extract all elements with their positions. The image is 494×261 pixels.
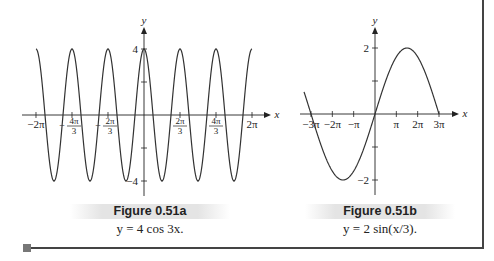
frame-right-border (482, 0, 484, 248)
x-tick-label: −3π (302, 118, 320, 130)
x-axis-arrow-icon (452, 111, 459, 117)
denominator: 3 (178, 126, 183, 136)
x-tick-label: π (394, 118, 400, 130)
y-tick-label: 4 (133, 43, 139, 55)
y-axis-label: y (141, 14, 147, 26)
x-tick-label: 2π3 (173, 116, 187, 136)
denominator: 3 (214, 126, 219, 136)
corner-square-marker (23, 244, 31, 252)
x-tick-label: −2π (27, 118, 45, 130)
y-axis-arrow-icon (372, 27, 378, 34)
frame-bottom-border (30, 247, 484, 249)
figure-equation-b: y = 2 sin(x/3). (305, 221, 455, 236)
x-axis-arrow-icon (264, 112, 271, 118)
x-tick-label: 4π3 (209, 116, 223, 136)
x-axis-label: x (462, 107, 468, 119)
denominator: 3 (108, 126, 113, 136)
numerator: 2π (105, 116, 115, 126)
x-tick-label: 3π (433, 118, 445, 130)
x-tick-label: 2π (246, 118, 258, 130)
figure-title-a: Figure 0.51a (70, 204, 230, 219)
x-axis-label: x (274, 108, 280, 120)
plot-b: xy−3π−2π−ππ2π3π2−2 (300, 14, 468, 195)
plot-a: xy−2π−4π3−2π32π34π32π4−4 (22, 14, 280, 196)
y-tick-label: 2 (364, 42, 370, 54)
x-tick-label: −2π (324, 118, 342, 130)
figure-equation-a: y = 4 cos 3x. (70, 221, 230, 236)
y-tick-label: −2 (357, 174, 369, 186)
denominator: 3 (72, 126, 77, 136)
numerator: 4π (211, 116, 221, 126)
x-tick-label: 2π (412, 118, 424, 130)
y-axis-arrow-icon (141, 27, 147, 34)
figure-panel: xy−2π−4π3−2π32π34π32π4−4 xy−3π−2π−ππ2π3π… (0, 0, 494, 261)
numerator: 2π (175, 116, 185, 126)
x-tick-label: −π (348, 118, 360, 130)
y-axis-label: y (372, 14, 378, 26)
figure-title-b: Figure 0.51b (305, 204, 455, 219)
numerator: 4π (69, 116, 79, 126)
